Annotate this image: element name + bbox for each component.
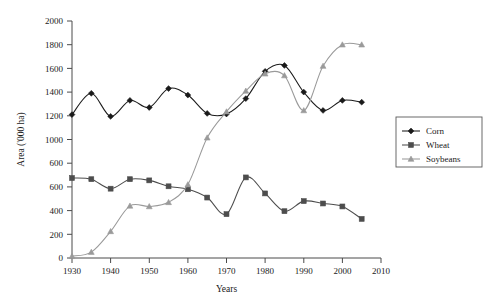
- legend-entry-corn[interactable]: Corn: [402, 126, 445, 136]
- data-point-marker: [359, 99, 365, 105]
- x-tick-label: 1970: [218, 266, 237, 276]
- y-tick-label: 1600: [45, 64, 64, 74]
- x-tick-label: 1930: [63, 266, 82, 276]
- data-point-marker: [282, 209, 287, 214]
- y-tick-label: 2000: [45, 16, 64, 26]
- data-point-marker: [243, 175, 248, 180]
- data-point-marker: [147, 178, 152, 183]
- data-point-marker: [88, 90, 94, 96]
- x-axis-title: Years: [216, 284, 238, 294]
- data-point-marker: [321, 201, 326, 206]
- data-point-marker: [108, 113, 114, 119]
- legend-label: Wheat: [426, 140, 450, 150]
- data-point-marker: [320, 108, 326, 114]
- series-line: [72, 43, 362, 256]
- data-point-marker: [70, 176, 75, 181]
- data-point-marker: [339, 97, 345, 103]
- x-tick-label: 2010: [372, 266, 391, 276]
- data-point-marker: [263, 191, 268, 196]
- x-tick-label: 2000: [333, 266, 352, 276]
- y-axis-title: Area ('000 ha): [16, 112, 27, 166]
- x-tick-label: 1990: [295, 266, 314, 276]
- data-point-marker: [185, 182, 191, 187]
- data-point-marker: [320, 63, 326, 68]
- legend-entries: CornWheatSoybeans: [402, 126, 461, 164]
- y-tick-label: 400: [50, 206, 64, 216]
- x-tick-label: 1960: [179, 266, 198, 276]
- data-point-marker: [127, 203, 133, 208]
- data-point-marker: [205, 195, 210, 200]
- legend-label: Soybeans: [426, 154, 461, 164]
- series-line: [72, 64, 362, 116]
- y-tick-label: 600: [50, 182, 64, 192]
- x-axis-ticks: [72, 258, 381, 263]
- y-tick-label: 1400: [45, 87, 64, 97]
- legend-label: Corn: [426, 126, 445, 136]
- data-point-marker: [146, 105, 152, 111]
- data-point-marker: [204, 135, 210, 140]
- y-tick-label: 200: [50, 230, 64, 240]
- y-axis-ticks: [67, 21, 72, 258]
- y-tick-label: 1200: [45, 111, 64, 121]
- data-point-marker: [359, 216, 364, 221]
- line-chart: 0 200 400 600 600 1000 1200 1400 1600 18…: [0, 0, 495, 304]
- data-point-marker: [89, 177, 94, 182]
- series-wheat: [70, 175, 365, 221]
- data-point-marker: [166, 184, 171, 189]
- data-point-marker: [127, 177, 132, 182]
- x-tick-label: 1950: [140, 266, 159, 276]
- legend-entry-wheat[interactable]: Wheat: [402, 140, 450, 150]
- y-tick-label: 1800: [45, 40, 64, 50]
- y-axis-tick-labels: 0 200 400 600 600 1000 1200 1400 1600 18…: [45, 16, 64, 263]
- y-tick-label: 1000: [45, 135, 64, 145]
- x-axis-tick-labels: 1930 1940 1950 1960 1970 1980 1990 2000 …: [63, 266, 391, 276]
- legend: CornWheatSoybeans: [396, 117, 482, 167]
- y-tick-label: 600: [50, 158, 64, 168]
- series-line: [72, 177, 362, 219]
- data-point-marker: [166, 86, 172, 92]
- data-point-marker: [301, 199, 306, 204]
- data-point-marker: [224, 212, 229, 217]
- legend-entry-soybeans[interactable]: Soybeans: [402, 154, 461, 164]
- data-point-marker: [127, 97, 133, 103]
- legend-marker-diamond-icon: [408, 128, 414, 134]
- data-point-marker: [108, 186, 113, 191]
- data-point-marker: [204, 111, 210, 117]
- x-tick-label: 1980: [256, 266, 275, 276]
- series-layer: [69, 42, 364, 259]
- data-point-marker: [166, 199, 172, 204]
- legend-marker-square-icon: [409, 143, 414, 148]
- x-tick-label: 1940: [102, 266, 121, 276]
- y-tick-label: 0: [59, 253, 64, 263]
- data-point-marker: [340, 204, 345, 209]
- series-soybeans: [69, 42, 364, 259]
